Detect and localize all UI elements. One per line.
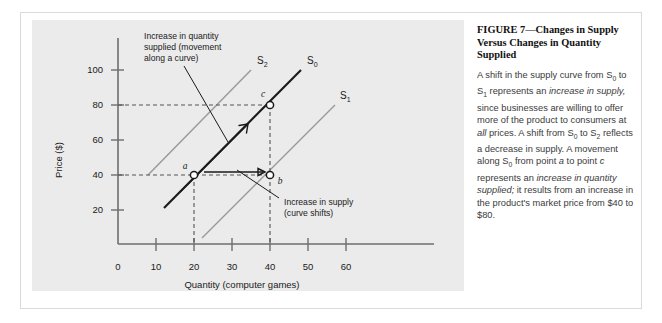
y-tick-label-20: 20	[92, 204, 103, 215]
a-to-b-arrow	[204, 169, 265, 176]
cap-em-point-c: c	[600, 156, 605, 166]
cap-seg-8: from point	[512, 156, 559, 166]
curve-label-s2: S2	[257, 55, 268, 68]
point-c	[266, 101, 273, 108]
curve-s2	[148, 70, 251, 175]
anno1-line3: along a curve)	[144, 53, 199, 63]
along-curve-arrow	[180, 124, 248, 192]
figure-title: FIGURE 7—Changes in Supply Versus Change…	[477, 24, 635, 62]
x-tick-label-20: 20	[189, 261, 200, 272]
curve-label-s1: S1	[340, 90, 351, 103]
cap-seg-1: A shift in the supply curve from S	[477, 70, 612, 80]
anno2-line1: Increase in supply	[284, 197, 354, 207]
anno1-line2: supplied (movement	[144, 42, 222, 52]
supply-curve-chart: 20 40 60 80 100 Price ($) 0 10 20 30 40 …	[32, 20, 464, 291]
anno1-line1: Increase in quantity	[144, 31, 219, 41]
y-tick-label-100: 100	[87, 64, 103, 75]
x-tick-label-40: 40	[265, 261, 276, 272]
point-label-c: c	[261, 89, 266, 99]
cap-em-increase-in-supply: increase in supply,	[549, 86, 625, 96]
y-axis-title: Price ($)	[53, 142, 64, 178]
cap-seg-3: represents an	[487, 86, 549, 96]
cap-seg-4: since businesses are willing to offer mo…	[477, 103, 626, 126]
x-tick-label-0: 0	[115, 261, 120, 272]
point-label-b: b	[278, 176, 283, 186]
cap-seg-10: represents an	[477, 173, 536, 183]
x-tick-label-50: 50	[303, 261, 314, 272]
x-tick-label-60: 60	[341, 261, 352, 272]
y-tick-label-60: 60	[92, 134, 103, 145]
annotation-increase-in-supply: Increase in supply (curve shifts)	[237, 170, 354, 218]
anno2-line2: (curve shifts)	[284, 208, 333, 218]
y-tick-label-40: 40	[92, 169, 103, 180]
x-axis-title: Quantity (computer games)	[184, 279, 299, 290]
cap-seg-9: to point	[564, 156, 600, 166]
cap-seg-5: prices. A shift from S	[486, 128, 573, 138]
figure-caption-text: A shift in the supply curve from S0 to S…	[477, 69, 635, 222]
annotation-increase-in-quantity-supplied: Increase in quantity supplied (movement …	[144, 31, 228, 142]
curve-label-s0: S0	[307, 55, 318, 68]
x-tick-label-30: 30	[227, 261, 238, 272]
figure-root: 20 40 60 80 100 Price ($) 0 10 20 30 40 …	[0, 0, 662, 323]
cap-seg-6: to S	[577, 128, 596, 138]
figure-title-prefix: FIGURE 7	[477, 24, 525, 35]
x-tick-label-10: 10	[151, 261, 162, 272]
figure-caption-block: FIGURE 7—Changes in Supply Versus Change…	[477, 24, 635, 222]
figure-title-dash: —	[525, 24, 535, 35]
cap-em-all: all	[477, 128, 486, 138]
y-tick-label-80: 80	[92, 99, 103, 110]
point-a	[190, 171, 197, 178]
point-b	[266, 171, 273, 178]
point-label-a: a	[183, 161, 188, 171]
